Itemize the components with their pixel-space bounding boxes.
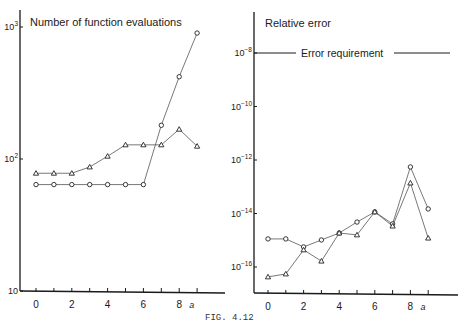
- series-line-triangles: [268, 183, 428, 277]
- x-tick-label: 2: [69, 299, 75, 310]
- x-tick-label: 2: [301, 301, 307, 312]
- chart-relative-error: 02468a10−810−1010−1210−1410−16Relative e…: [231, 12, 458, 312]
- y-tick-label: 10−16: [231, 260, 252, 272]
- x-axis: [254, 293, 458, 295]
- circle-marker: [319, 238, 323, 242]
- circle-marker: [195, 31, 199, 35]
- x-axis: [20, 291, 225, 293]
- circle-marker: [355, 220, 359, 224]
- y-tick-label: 10−10: [231, 100, 252, 112]
- circle-marker: [408, 165, 412, 169]
- circle-marker: [266, 237, 270, 241]
- chart-title: Number of function evaluations: [30, 16, 182, 28]
- figure: 02468a10102103Number of function evaluat…: [0, 0, 461, 329]
- chart-title: Relative error: [265, 17, 331, 29]
- circle-marker: [123, 182, 127, 186]
- circle-marker: [426, 207, 430, 211]
- series-markers-circles: [34, 31, 200, 187]
- x-tick-label: 0: [33, 299, 39, 310]
- y-tick-label: 102: [4, 152, 18, 164]
- series-markers-circles: [266, 165, 431, 249]
- series-line-circles: [268, 167, 428, 247]
- circle-marker: [159, 123, 163, 127]
- x-axis-label: a: [420, 302, 425, 312]
- y-tick-label: 10−8: [235, 46, 253, 58]
- figure-caption: FIG. 4.12: [205, 313, 254, 323]
- x-tick-label: 6: [141, 299, 147, 310]
- circle-marker: [88, 182, 92, 186]
- series-markers-triangles: [265, 180, 430, 278]
- circle-marker: [141, 182, 145, 186]
- series-line-circles: [36, 33, 197, 185]
- circle-marker: [177, 75, 181, 79]
- circle-marker: [284, 237, 288, 241]
- triangle-marker: [426, 236, 431, 241]
- x-tick-label: 4: [336, 301, 342, 312]
- x-tick-label: 0: [265, 301, 271, 312]
- circle-marker: [34, 182, 38, 186]
- y-tick-label: 10−14: [231, 207, 252, 219]
- triangle-marker: [408, 180, 413, 185]
- y-tick-label: 10−12: [231, 153, 252, 165]
- triangle-marker: [87, 164, 92, 169]
- triangle-marker: [177, 127, 182, 132]
- x-tick-label: 6: [372, 301, 378, 312]
- series-line-triangles: [36, 129, 197, 173]
- circle-marker: [105, 182, 109, 186]
- x-tick-label: 8: [408, 301, 414, 312]
- y-tick-label: 10: [8, 286, 18, 296]
- x-tick-label: 8: [176, 299, 182, 310]
- circle-marker: [70, 182, 74, 186]
- triangle-marker: [105, 154, 110, 159]
- error-requirement-label: Error requirement: [301, 47, 383, 59]
- x-tick-label: 4: [105, 299, 111, 310]
- chart-function-evaluations: 02468a10102103Number of function evaluat…: [4, 10, 225, 310]
- y-tick-label: 103: [4, 20, 18, 32]
- x-axis-label: a: [189, 300, 194, 310]
- triangle-marker: [319, 259, 324, 264]
- circle-marker: [52, 182, 56, 186]
